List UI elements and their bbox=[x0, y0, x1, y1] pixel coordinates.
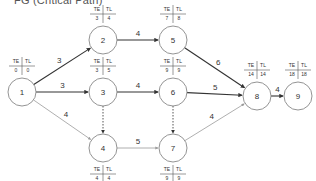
te-header: TE bbox=[94, 6, 101, 12]
tl-header: TL bbox=[301, 62, 307, 68]
tl-header: TL bbox=[25, 58, 31, 64]
tl-value: 14 bbox=[260, 71, 266, 77]
tl-value: 18 bbox=[301, 71, 307, 77]
node-8-time-table: TETL1414 bbox=[244, 61, 270, 79]
tl-value: 0 bbox=[27, 67, 30, 73]
te-header: TE bbox=[94, 166, 101, 172]
node-label: 5 bbox=[171, 36, 176, 45]
node-label: 3 bbox=[101, 88, 106, 97]
edge-weight-1-4: 4 bbox=[64, 110, 69, 119]
tl-header: TL bbox=[176, 58, 182, 64]
tl-value: 5 bbox=[108, 67, 111, 73]
node-6-time-table: TETL99 bbox=[160, 57, 186, 75]
te-header: TE bbox=[289, 62, 296, 68]
node-1-time-table: TETL00 bbox=[9, 57, 35, 75]
node-label: 7 bbox=[171, 144, 176, 153]
te-value: 14 bbox=[248, 71, 254, 77]
te-value: 3 bbox=[96, 15, 99, 21]
node-8: 8TETL1414 bbox=[243, 61, 271, 110]
node-5-time-table: TETL78 bbox=[160, 5, 186, 23]
node-2: 2TETL34 bbox=[89, 5, 117, 54]
edge-weight-5-8: 6 bbox=[216, 58, 221, 67]
te-header: TE bbox=[164, 58, 171, 64]
edge-1-4 bbox=[34, 100, 91, 140]
node-label: 2 bbox=[101, 36, 106, 45]
node-7-time-table: TETL99 bbox=[160, 165, 186, 181]
edge-weight-6-8: 5 bbox=[213, 83, 218, 92]
edge-6-8 bbox=[187, 93, 242, 96]
edge-5-8 bbox=[185, 48, 245, 88]
te-value: 9 bbox=[166, 175, 169, 181]
te-value: 9 bbox=[166, 67, 169, 73]
te-header: TE bbox=[164, 166, 171, 172]
edge-weight-4-7: 5 bbox=[136, 137, 141, 146]
tl-value: 9 bbox=[178, 175, 181, 181]
node-4-time-table: TETL44 bbox=[90, 165, 116, 181]
tl-header: TL bbox=[106, 6, 112, 12]
edge-weight-3-6: 4 bbox=[136, 81, 141, 90]
edge-7-8 bbox=[185, 104, 244, 141]
te-value: 18 bbox=[289, 71, 295, 77]
node-label: 4 bbox=[101, 144, 106, 153]
te-value: 0 bbox=[15, 67, 18, 73]
node-3: 3TETL35 bbox=[89, 57, 117, 106]
te-header: TE bbox=[248, 62, 255, 68]
tl-header: TL bbox=[106, 166, 112, 172]
edge-weight-8-9: 4 bbox=[275, 85, 280, 94]
node-label: 6 bbox=[171, 88, 176, 97]
te-header: TE bbox=[13, 58, 20, 64]
tl-value: 4 bbox=[108, 15, 111, 21]
te-value: 7 bbox=[166, 15, 169, 21]
network-diagram: 3344456544 1TETL002TETL343TETL354TETL445… bbox=[0, 0, 316, 181]
edge-weight-1-3: 3 bbox=[60, 81, 65, 90]
node-9-time-table: TETL1818 bbox=[285, 61, 311, 79]
tl-header: TL bbox=[260, 62, 266, 68]
node-label: 8 bbox=[255, 92, 260, 101]
tl-header: TL bbox=[176, 166, 182, 172]
tl-value: 8 bbox=[178, 15, 181, 21]
tl-header: TL bbox=[176, 6, 182, 12]
tl-value: 4 bbox=[108, 175, 111, 181]
node-label: 1 bbox=[20, 88, 25, 97]
te-header: TE bbox=[94, 58, 101, 64]
node-6: 6TETL99 bbox=[159, 57, 187, 106]
node-1: 1TETL00 bbox=[8, 57, 36, 106]
edge-1-2 bbox=[34, 48, 91, 84]
nodes-layer: 1TETL002TETL343TETL354TETL445TETL786TETL… bbox=[8, 5, 312, 181]
node-label: 9 bbox=[296, 92, 301, 101]
te-header: TE bbox=[164, 6, 171, 12]
tl-header: TL bbox=[106, 58, 112, 64]
node-3-time-table: TETL35 bbox=[90, 57, 116, 75]
edge-weight-7-8: 4 bbox=[210, 112, 215, 121]
node-7: 7TETL99 bbox=[159, 134, 187, 181]
edge-weight-2-5: 4 bbox=[136, 29, 141, 38]
edge-weight-1-2: 3 bbox=[57, 56, 62, 65]
node-5: 5TETL78 bbox=[159, 5, 187, 54]
tl-value: 9 bbox=[178, 67, 181, 73]
te-value: 4 bbox=[96, 175, 99, 181]
node-2-time-table: TETL34 bbox=[90, 5, 116, 23]
node-4: 4TETL44 bbox=[89, 134, 117, 181]
node-9: 9TETL1818 bbox=[284, 61, 312, 110]
te-value: 3 bbox=[96, 67, 99, 73]
